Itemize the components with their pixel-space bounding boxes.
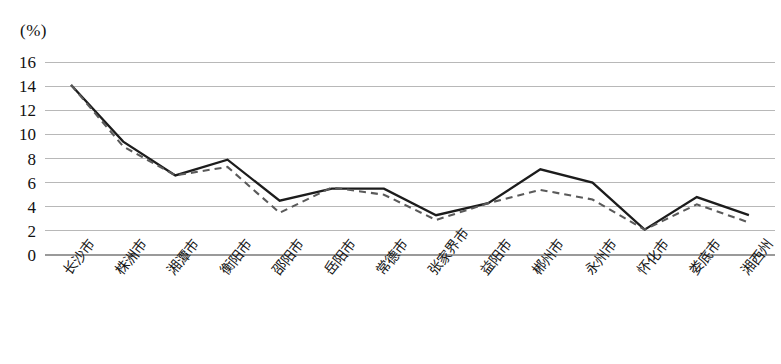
chart-container: (%) 0246810121416 长沙市株洲市湘潭市衡阳市邵阳市岳阳市常德市张…: [0, 0, 781, 364]
y-axis-tick-label: 14: [19, 77, 37, 96]
y-axis-tick-label: 8: [28, 150, 37, 169]
gridlines: [45, 62, 775, 255]
y-axis-tick-label: 12: [19, 101, 36, 120]
y-axis-tick-label: 16: [19, 53, 36, 72]
y-axis-tick-label: 6: [28, 174, 37, 193]
y-axis-tick-labels: 0246810121416: [19, 53, 37, 265]
y-axis-tick-label: 4: [28, 198, 37, 217]
series-line-dashed-line: [71, 85, 749, 230]
y-axis-tick-label: 2: [28, 222, 37, 241]
y-axis-tick-label: 10: [19, 125, 36, 144]
chart-plot-area: 0246810121416: [0, 0, 781, 364]
y-axis-tick-label: 0: [28, 246, 37, 265]
data-series: [71, 85, 749, 230]
